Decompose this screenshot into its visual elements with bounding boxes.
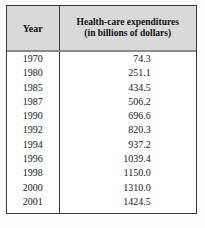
cell-expenditure: 1424.5 — [59, 195, 196, 209]
cell-year: 1980 — [7, 66, 59, 80]
table-row: 1985434.5 — [7, 81, 196, 95]
cell-expenditure: 696.6 — [59, 109, 196, 123]
column-header-year: Year — [7, 6, 59, 51]
cell-expenditure-value: 1424.5 — [105, 195, 151, 209]
cell-expenditure-value: 251.1 — [105, 66, 151, 80]
filler-cell-expenditure — [59, 209, 196, 213]
cell-expenditure: 74.3 — [59, 51, 196, 66]
cell-expenditure: 251.1 — [59, 66, 196, 80]
cell-year: 1992 — [7, 123, 59, 137]
cell-expenditure-value: 937.2 — [105, 138, 151, 152]
cell-expenditure-value: 1310.0 — [105, 181, 151, 195]
cell-expenditure-value: 820.3 — [105, 123, 151, 137]
table-header: Year Health-care expenditures (in billio… — [7, 6, 196, 51]
table-row: 1992820.3 — [7, 123, 196, 137]
table-row: 20001310.0 — [7, 181, 196, 195]
page-root: Year Health-care expenditures (in billio… — [0, 0, 205, 228]
cell-expenditure: 434.5 — [59, 81, 196, 95]
column-header-expenditures-line2: (in billions of dollars) — [64, 28, 193, 39]
cell-expenditure-value: 696.6 — [105, 109, 151, 123]
cell-expenditure-value: 1150.0 — [105, 166, 151, 180]
cell-year: 2000 — [7, 181, 59, 195]
table-row: 20011424.5 — [7, 195, 196, 209]
cell-expenditure: 506.2 — [59, 95, 196, 109]
table-header-row: Year Health-care expenditures (in billio… — [7, 6, 196, 51]
cell-expenditure: 1039.4 — [59, 152, 196, 166]
cell-year: 1985 — [7, 81, 59, 95]
cell-expenditure: 1150.0 — [59, 166, 196, 180]
cell-expenditure-value: 434.5 — [105, 81, 151, 95]
cell-year: 1970 — [7, 51, 59, 66]
cell-year: 1987 — [7, 95, 59, 109]
cell-year: 1998 — [7, 166, 59, 180]
health-care-expenditures-table: Year Health-care expenditures (in billio… — [7, 6, 196, 213]
cell-expenditure-value: 74.3 — [105, 52, 151, 66]
filler-cell-year — [7, 209, 59, 213]
table-row: 1994937.2 — [7, 138, 196, 152]
table-row: 1990696.6 — [7, 109, 196, 123]
cell-expenditure: 937.2 — [59, 138, 196, 152]
table-row: 1980251.1 — [7, 66, 196, 80]
cell-expenditure: 1310.0 — [59, 181, 196, 195]
cell-expenditure-value: 1039.4 — [105, 152, 151, 166]
data-table-container: Year Health-care expenditures (in billio… — [6, 5, 197, 214]
column-header-expenditures: Health-care expenditures (in billions of… — [59, 6, 196, 51]
table-body: 197074.31980251.11985434.51987506.219906… — [7, 51, 196, 213]
table-row: 19961039.4 — [7, 152, 196, 166]
cell-year: 2001 — [7, 195, 59, 209]
column-header-expenditures-line1: Health-care expenditures — [64, 17, 193, 28]
table-row: 197074.3 — [7, 51, 196, 66]
cell-year: 1994 — [7, 138, 59, 152]
cell-expenditure: 820.3 — [59, 123, 196, 137]
table-row: 1987506.2 — [7, 95, 196, 109]
table-filler-row — [7, 209, 196, 213]
cell-expenditure-value: 506.2 — [105, 95, 151, 109]
cell-year: 1990 — [7, 109, 59, 123]
cell-year: 1996 — [7, 152, 59, 166]
table-row: 19981150.0 — [7, 166, 196, 180]
